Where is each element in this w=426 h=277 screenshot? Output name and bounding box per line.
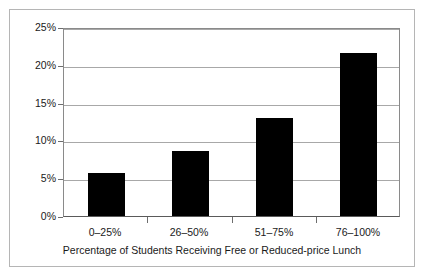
x-axis-category-label: 76–100% [316, 226, 400, 238]
x-axis-tick [147, 217, 148, 223]
chart-figure: 0%5%10%15%20%25% 0–25%26–50%51–75%76–100… [0, 0, 426, 277]
y-axis-tick-label: 25% [16, 22, 56, 33]
y-axis-tick-label: 10% [16, 135, 56, 146]
bar [340, 53, 377, 216]
bar [172, 151, 209, 216]
y-axis-tick [58, 217, 63, 218]
x-axis-title: Percentage of Students Receiving Free or… [9, 244, 415, 257]
x-axis-tick [232, 217, 233, 223]
gridline [64, 29, 399, 30]
x-axis-tick [316, 217, 317, 223]
plot-area [63, 28, 400, 217]
x-axis-category-label: 0–25% [63, 226, 147, 238]
y-axis-tick-label: 20% [16, 60, 56, 71]
bar [256, 118, 293, 216]
y-axis-tick-label: 15% [16, 98, 56, 109]
x-axis-category-label: 51–75% [232, 226, 316, 238]
y-axis-tick-label: 0% [16, 211, 56, 222]
y-axis-tick-label: 5% [16, 173, 56, 184]
x-axis-category-label: 26–50% [147, 226, 231, 238]
bar [88, 173, 125, 216]
